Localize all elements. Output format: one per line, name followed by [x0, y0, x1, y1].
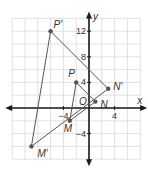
point-n-prime	[106, 87, 110, 91]
point-n	[93, 99, 97, 103]
point-label-m-prime: M′	[37, 148, 48, 159]
x-axis-left-arrow-icon	[5, 105, 12, 111]
point-p-prime	[48, 29, 52, 33]
y-tick-label: 4	[81, 77, 86, 87]
origin-label: O	[79, 96, 87, 107]
point-label-p: P	[68, 68, 75, 79]
point-label-n-prime: N′	[113, 81, 123, 92]
y-tick-label: 8	[81, 52, 86, 62]
point-m-prime	[29, 144, 33, 148]
y-tick-label: −4	[76, 129, 86, 139]
x-tick-label: 4	[112, 111, 117, 121]
y-axis-label: y	[92, 11, 99, 22]
point-label-n: N	[100, 99, 108, 110]
point-label-p-prime: P′	[54, 19, 64, 30]
point-label-m: M	[64, 123, 73, 134]
point-p	[74, 80, 78, 84]
y-tick-label: 12	[76, 26, 86, 36]
x-axis-label: x	[136, 95, 143, 106]
y-axis-down-arrow-icon	[86, 159, 92, 166]
coordinate-plane-diagram: −441284−4xyOPNMP′N′M′	[0, 0, 148, 172]
y-axis-up-arrow-icon	[86, 11, 92, 18]
x-tick-label: −4	[58, 111, 68, 121]
